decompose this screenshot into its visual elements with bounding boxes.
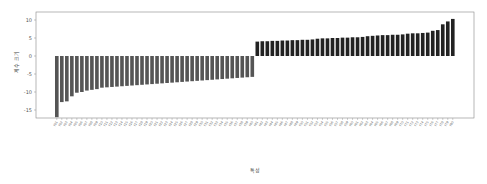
bar — [376, 35, 380, 56]
bars-group — [55, 19, 455, 117]
bar — [225, 56, 229, 79]
y-tick-label: 10 — [26, 17, 32, 23]
x-axis: f01f02f03f04f05f06f07f08f09f10f11f12f13f… — [53, 118, 455, 127]
bar — [326, 38, 330, 56]
bar — [75, 56, 79, 93]
bar — [80, 56, 84, 92]
bar — [451, 19, 455, 56]
bar — [235, 56, 239, 78]
y-axis: 1050-5-10-15 — [24, 17, 36, 113]
bar — [431, 31, 435, 56]
bar — [70, 56, 74, 96]
bar — [125, 56, 129, 86]
bar — [361, 37, 365, 56]
bar — [321, 38, 325, 56]
bar — [291, 40, 295, 56]
bar — [286, 41, 290, 56]
bar — [391, 35, 395, 56]
bar — [341, 38, 345, 56]
bar — [406, 34, 410, 56]
bar — [85, 56, 89, 91]
bar — [190, 56, 194, 81]
bar — [160, 56, 164, 83]
bar — [261, 41, 265, 56]
coefficient-bar-chart: 1050-5-10-15 f01f02f03f04f05f06f07f08f09… — [0, 0, 487, 184]
bar — [396, 35, 400, 56]
bar — [180, 56, 184, 82]
bar — [150, 56, 154, 84]
bar — [446, 21, 450, 56]
bar — [210, 56, 214, 80]
bar — [130, 56, 134, 86]
y-tick-label: -15 — [24, 107, 32, 113]
bar — [336, 38, 340, 56]
bar — [165, 56, 169, 83]
bar — [195, 56, 199, 81]
bar — [426, 33, 430, 56]
bar — [220, 56, 224, 79]
bar — [256, 42, 260, 56]
bar — [266, 41, 270, 56]
x-axis-title: 특성 — [250, 167, 260, 174]
bar — [281, 41, 285, 56]
bar — [301, 40, 305, 56]
bar — [356, 37, 360, 56]
bar — [386, 35, 390, 56]
bar — [110, 56, 114, 87]
bar — [240, 56, 244, 78]
bar — [155, 56, 159, 84]
bar — [371, 36, 375, 56]
bar — [140, 56, 144, 85]
bar — [346, 38, 350, 56]
y-tick-label: 0 — [29, 53, 32, 59]
y-tick-label: -10 — [24, 89, 32, 95]
y-tick-label: 5 — [29, 35, 32, 41]
bar — [175, 56, 179, 82]
bar — [401, 34, 405, 56]
bar — [276, 41, 280, 56]
bar — [441, 24, 445, 56]
bar — [381, 35, 385, 56]
bar — [306, 40, 310, 56]
bar — [65, 56, 69, 101]
bar — [230, 56, 234, 78]
bar — [250, 56, 254, 77]
y-tick-label: -5 — [27, 71, 32, 77]
bar — [351, 37, 355, 56]
bar — [95, 56, 99, 89]
bar — [436, 30, 440, 56]
bar — [311, 39, 315, 56]
bar — [245, 56, 249, 77]
bar — [105, 56, 109, 87]
bar — [170, 56, 174, 83]
bar — [416, 33, 420, 56]
bar — [185, 56, 189, 82]
bar — [331, 38, 335, 56]
bar — [135, 56, 139, 85]
bar — [100, 56, 104, 88]
bar — [200, 56, 204, 80]
bar — [55, 56, 59, 117]
bar — [145, 56, 149, 84]
y-axis-title: 계수 크기 — [13, 51, 20, 73]
bar — [205, 56, 209, 80]
bar — [421, 33, 425, 56]
bar — [115, 56, 119, 87]
bar — [271, 41, 275, 56]
bar — [366, 36, 370, 56]
bar — [60, 56, 64, 102]
bar — [215, 56, 219, 79]
bar — [316, 39, 320, 56]
bar — [411, 33, 415, 56]
bar — [296, 40, 300, 56]
x-tick-label: f80 — [449, 121, 455, 127]
bar — [90, 56, 94, 90]
bar — [120, 56, 124, 86]
